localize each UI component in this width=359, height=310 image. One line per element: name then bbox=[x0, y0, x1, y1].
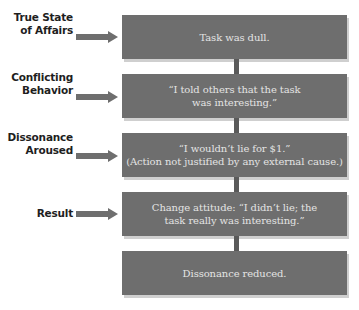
box-text: Change attitude: “I didn’t lie; the bbox=[152, 201, 317, 214]
box-text: “I told others that the task bbox=[168, 83, 300, 96]
connector-line bbox=[234, 236, 239, 252]
label-line: Aroused bbox=[8, 144, 73, 157]
label-line: Dissonance bbox=[8, 131, 73, 144]
right-arrow-icon bbox=[76, 208, 118, 220]
right-arrow-icon bbox=[76, 150, 118, 162]
stage-label-conflicting-behavior: Conflicting Behavior bbox=[11, 71, 73, 97]
label-line: Conflicting bbox=[11, 71, 73, 84]
label-line: of Affairs bbox=[14, 24, 73, 37]
label-line: Result bbox=[37, 207, 73, 220]
right-arrow-icon bbox=[76, 91, 118, 103]
box-text: Task was dull. bbox=[199, 31, 269, 44]
box-text: was interesting.” bbox=[192, 96, 277, 109]
flow-box-change-attitude: Change attitude: “I didn’t lie; the task… bbox=[122, 192, 347, 236]
label-line: True State bbox=[14, 11, 73, 24]
flow-box-task-dull: Task was dull. bbox=[122, 15, 347, 59]
stage-label-result: Result bbox=[37, 207, 73, 220]
flow-box-dissonance-reduced: Dissonance reduced. bbox=[122, 251, 347, 295]
box-text: task really was interesting.” bbox=[165, 214, 305, 227]
flow-box-told-others: “I told others that the task was interes… bbox=[122, 74, 347, 118]
box-text: (Action not justified by any external ca… bbox=[126, 155, 343, 168]
label-line: Behavior bbox=[11, 84, 73, 97]
box-text: “I wouldn’t lie for $1.” bbox=[179, 142, 290, 155]
connector-line bbox=[234, 177, 239, 193]
right-arrow-icon bbox=[76, 31, 118, 43]
stage-label-true-state: True State of Affairs bbox=[14, 11, 73, 37]
connector-line bbox=[234, 118, 239, 134]
box-text: Dissonance reduced. bbox=[183, 267, 287, 280]
connector-line bbox=[234, 59, 239, 75]
flow-box-wouldnt-lie: “I wouldn’t lie for $1.” (Action not jus… bbox=[122, 133, 347, 177]
stage-label-dissonance-aroused: Dissonance Aroused bbox=[8, 131, 73, 157]
